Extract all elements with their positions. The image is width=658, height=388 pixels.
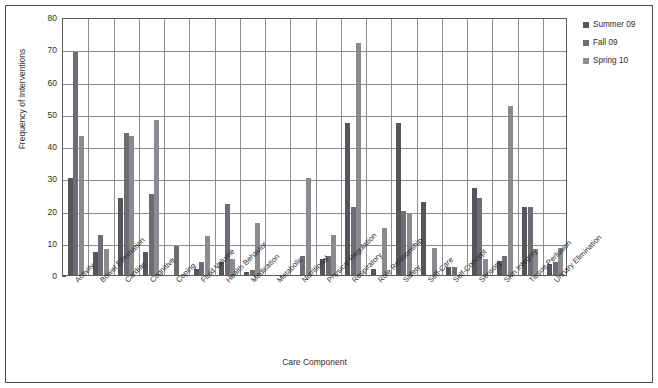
chart-figure: Frequency of Interventions 0102030405060…	[0, 0, 658, 388]
gridline-horizontal	[63, 51, 566, 52]
bar	[351, 207, 356, 275]
bar	[371, 269, 376, 275]
gridline-horizontal	[63, 180, 566, 181]
bar-group	[189, 19, 214, 275]
y-tick-label: 70	[48, 45, 57, 55]
gridline-vertical	[114, 19, 115, 275]
gridline-vertical	[88, 19, 89, 275]
bar	[508, 106, 513, 275]
y-tick-label: 60	[48, 78, 57, 88]
bar-group	[316, 19, 341, 275]
legend-label: Fall 09	[593, 38, 618, 47]
y-tick-label: 30	[48, 174, 57, 184]
legend-item[interactable]: Spring 10	[583, 56, 653, 65]
legend-swatch-icon	[583, 58, 589, 64]
bar	[73, 52, 78, 275]
gridline-horizontal	[63, 213, 566, 214]
y-axis-title: Frequency of Interventions	[17, 4, 27, 194]
bar	[79, 136, 84, 275]
bar-group	[290, 19, 315, 275]
bar-group	[467, 19, 492, 275]
bar-group	[391, 19, 416, 275]
gridline-vertical	[467, 19, 468, 275]
bar-group	[442, 19, 467, 275]
gridline-vertical	[290, 19, 291, 275]
y-tick-label: 50	[48, 110, 57, 120]
bar-group	[139, 19, 164, 275]
bar-group	[88, 19, 113, 275]
y-axis-ticks: 01020304050607080	[38, 18, 57, 276]
gridline-vertical	[518, 19, 519, 275]
bar-group	[63, 19, 88, 275]
bar-group	[114, 19, 139, 275]
y-tick-label: 20	[48, 207, 57, 217]
legend-swatch-icon	[583, 22, 589, 28]
gridline-horizontal	[63, 116, 566, 117]
gridline-vertical	[215, 19, 216, 275]
y-tick-label: 0	[52, 271, 57, 281]
bar	[154, 120, 159, 275]
gridline-vertical	[442, 19, 443, 275]
bar-group	[518, 19, 543, 275]
chart-legend: Summer 09Fall 09Spring 10	[583, 20, 653, 74]
bar	[306, 178, 311, 275]
gridline-vertical	[543, 19, 544, 275]
gridline-vertical	[240, 19, 241, 275]
gridline-vertical	[189, 19, 190, 275]
gridline-vertical	[341, 19, 342, 275]
legend-label: Summer 09	[593, 20, 635, 29]
bar-group	[240, 19, 265, 275]
gridline-horizontal	[63, 148, 566, 149]
legend-item[interactable]: Fall 09	[583, 38, 653, 47]
bar	[356, 43, 361, 275]
bar-group	[341, 19, 366, 275]
y-tick-label: 40	[48, 142, 57, 152]
y-tick-mark	[62, 276, 66, 277]
bar	[149, 194, 154, 275]
bar	[244, 272, 249, 275]
gridline-vertical	[265, 19, 266, 275]
bar-group	[417, 19, 442, 275]
gridline-vertical	[492, 19, 493, 275]
x-axis-tick-labels: ActivityBowel EliminationCardiacCognitiv…	[62, 278, 567, 356]
legend-item[interactable]: Summer 09	[583, 20, 653, 29]
y-tick-label: 10	[48, 239, 57, 249]
y-tick-label: 80	[48, 13, 57, 23]
bar-group	[265, 19, 290, 275]
bar-group	[492, 19, 517, 275]
bar	[401, 211, 406, 276]
bar	[98, 235, 103, 275]
bar	[68, 178, 73, 275]
bar-group	[164, 19, 189, 275]
bar-group	[215, 19, 240, 275]
gridline-horizontal	[63, 84, 566, 85]
legend-swatch-icon	[583, 40, 589, 46]
bar	[528, 207, 533, 275]
legend-label: Spring 10	[593, 56, 628, 65]
gridline-vertical	[316, 19, 317, 275]
bar-group	[543, 19, 568, 275]
bar	[225, 204, 230, 275]
gridline-vertical	[164, 19, 165, 275]
x-axis-title: Care Component	[62, 357, 567, 367]
gridline-vertical	[391, 19, 392, 275]
